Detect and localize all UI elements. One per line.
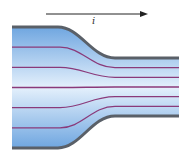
current-label: i	[92, 15, 95, 26]
arrow-head	[140, 11, 148, 17]
streamline	[12, 87, 179, 88]
